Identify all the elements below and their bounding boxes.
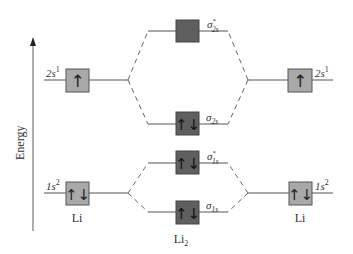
right-atom: ↑ 2s1 ↑↓ 1s2 Li	[288, 65, 329, 225]
left-2s-config-label: 2s1	[46, 65, 60, 79]
mo-sigma-1s: ↑↓ σ1s	[175, 199, 218, 224]
electron-arrows-icon: ↑↓	[175, 205, 200, 223]
electron-arrows-icon: ↑	[70, 71, 84, 91]
dash-left-2s-to-sigma-2s	[128, 80, 148, 124]
orbital-box	[176, 20, 199, 42]
dash-right-2s-to-sigma-star-2s	[228, 31, 248, 80]
mo-diagram: Energy ↑ 2s1	[0, 0, 353, 254]
electron-arrows-icon: ↑↓	[175, 116, 200, 134]
left-1s-config-label: 1s2	[46, 178, 60, 192]
mo-sigma-star-1s: ↑↓ σ*1s	[175, 149, 219, 174]
dash-left-1s-to-sigma-1s	[128, 193, 148, 212]
dash-right-1s-to-sigma-1s	[228, 193, 248, 212]
molecular-orbitals: σ*2s ↑↓ σ2s ↑↓ σ*1s ↑↓ σ1s	[174, 17, 219, 248]
dash-right-1s-to-sigma-star-1s	[228, 163, 248, 193]
molecule-label: Li2	[174, 232, 189, 248]
left-atom: ↑ 2s1 ↑↓ 1s2 Li	[46, 65, 90, 225]
energy-axis-label: Energy	[13, 126, 27, 160]
mo-sigma-2s: ↑↓ σ2s	[175, 111, 218, 135]
electron-arrows-icon: ↑↓	[65, 186, 90, 204]
right-1s-orbital: ↑↓ 1s2	[288, 178, 329, 205]
left-atom-label: Li	[72, 211, 83, 225]
mo-sigma-star-2s: σ*2s	[176, 17, 219, 42]
electron-arrows-icon: ↑	[293, 71, 307, 91]
right-1s-config-label: 1s2	[315, 178, 329, 192]
electron-arrows-icon: ↑↓	[288, 186, 313, 204]
arrowhead-icon	[30, 37, 36, 46]
dash-left-1s-to-sigma-star-1s	[128, 163, 148, 193]
right-atom-label: Li	[295, 211, 306, 225]
electron-arrows-icon: ↑↓	[175, 155, 200, 173]
energy-axis: Energy	[13, 37, 36, 231]
left-2s-orbital: ↑ 2s1	[46, 65, 89, 92]
dash-right-2s-to-sigma-2s	[228, 80, 248, 124]
left-1s-orbital: ↑↓ 1s2	[46, 178, 90, 205]
right-2s-orbital: ↑ 2s1	[288, 65, 329, 92]
right-2s-config-label: 2s1	[315, 65, 329, 79]
dash-left-2s-to-sigma-star-2s	[128, 31, 148, 80]
